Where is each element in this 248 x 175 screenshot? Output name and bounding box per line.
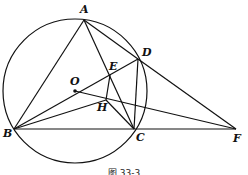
label-H: H bbox=[96, 101, 108, 114]
label-B: B bbox=[2, 127, 12, 140]
segment-BD bbox=[14, 59, 138, 129]
segment-AC bbox=[84, 20, 134, 129]
center-point-O bbox=[73, 89, 77, 93]
geometry-figure: A B C D E H O F 图 33-3 bbox=[0, 0, 248, 175]
figure-caption: 图 33-3 bbox=[108, 168, 140, 175]
label-F: F bbox=[232, 132, 242, 145]
label-C: C bbox=[136, 131, 145, 144]
label-E: E bbox=[108, 60, 118, 73]
segment-EH bbox=[106, 75, 110, 100]
label-A: A bbox=[79, 3, 89, 16]
label-O: O bbox=[70, 75, 80, 88]
segment-BH bbox=[14, 100, 106, 129]
label-D: D bbox=[141, 46, 152, 59]
segment-DC bbox=[134, 59, 138, 129]
segment-AD bbox=[84, 20, 138, 59]
segment-DF bbox=[138, 59, 236, 129]
